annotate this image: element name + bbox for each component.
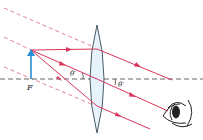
angle-label-right: θ′ — [118, 81, 124, 89]
diagram-canvas: F θ′ θ′ — [0, 0, 203, 140]
dashed-virtual-rays — [4, 8, 96, 106]
angle-arc-left — [82, 73, 83, 79]
focal-point-label: F — [26, 83, 33, 92]
object-arrow — [27, 49, 35, 79]
angle-arc-right — [115, 79, 116, 85]
angle-label-left: θ′ — [70, 70, 76, 78]
magnifier-ray-diagram: F θ′ θ′ — [0, 0, 203, 140]
eye-icon — [163, 100, 192, 127]
